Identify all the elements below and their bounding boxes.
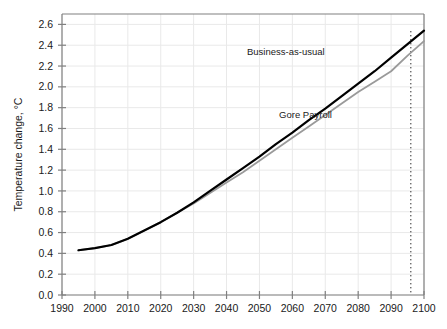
x-tick-label: 2020 <box>149 302 173 314</box>
x-tick-label: 2070 <box>314 302 338 314</box>
y-tick-label: 0.8 <box>38 205 53 217</box>
x-tick-label: 2080 <box>347 302 371 314</box>
x-tick-label: 1990 <box>50 302 74 314</box>
chart-background <box>0 0 447 329</box>
x-tick-label: 2060 <box>281 302 305 314</box>
y-axis-title: Temperature change, °C <box>12 97 24 211</box>
y-tick-label: 2.0 <box>38 80 53 92</box>
temperature-change-line-chart: 0.00.20.40.60.81.01.21.41.61.82.02.22.42… <box>0 0 447 329</box>
y-tick-label: 2.6 <box>38 18 53 30</box>
y-tick-label: 1.2 <box>38 164 53 176</box>
x-tick-label: 2000 <box>83 302 107 314</box>
y-tick-label: 1.0 <box>38 185 53 197</box>
y-tick-label: 0.4 <box>38 247 53 259</box>
x-tick-label: 2090 <box>379 302 403 314</box>
y-tick-label: 0.6 <box>38 226 53 238</box>
y-tick-label: 0.2 <box>38 268 53 280</box>
series-annotation-label: Business-as-usual <box>247 46 325 57</box>
y-tick-label: 1.8 <box>38 101 53 113</box>
x-tick-label: 2010 <box>116 302 140 314</box>
y-tick-label: 1.4 <box>38 143 53 155</box>
y-tick-label: 2.4 <box>38 39 53 51</box>
x-tick-label: 2050 <box>248 302 272 314</box>
y-tick-label: 0.0 <box>38 289 53 301</box>
x-tick-label: 2100 <box>412 302 436 314</box>
x-tick-label: 2030 <box>182 302 206 314</box>
chart-container: 0.00.20.40.60.81.01.21.41.61.82.02.22.42… <box>0 0 447 329</box>
y-tick-label: 2.2 <box>38 60 53 72</box>
series-annotation-label: Gore Payroll <box>279 109 332 120</box>
x-tick-label: 2040 <box>215 302 239 314</box>
y-tick-label: 1.6 <box>38 122 53 134</box>
